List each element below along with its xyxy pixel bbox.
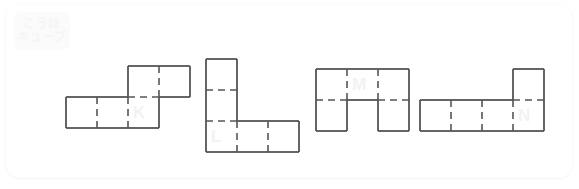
cube-nets-group: KLMN xyxy=(0,0,579,189)
worksheet-canvas: こうほ キューブ KLMN xyxy=(0,0,579,189)
cube-net-k[interactable] xyxy=(66,66,190,128)
cube-net-m[interactable] xyxy=(316,69,409,131)
cube-net-n[interactable] xyxy=(420,69,544,131)
nets-svg xyxy=(0,0,579,189)
cube-net-l[interactable] xyxy=(206,59,299,152)
